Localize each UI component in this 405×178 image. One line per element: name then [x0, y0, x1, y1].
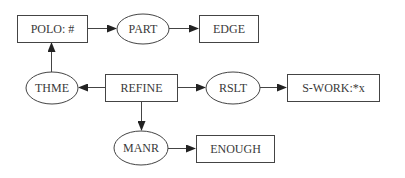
node-edge: EDGE	[200, 16, 259, 43]
node-label: PART	[129, 22, 159, 36]
node-thme: THME	[26, 72, 78, 104]
diagram-canvas: POLO: # PART EDGE THME REFINE RSLT S-WOR…	[0, 0, 405, 178]
node-enough: ENOUGH	[197, 136, 275, 163]
node-label: POLO: #	[31, 22, 75, 36]
node-label: MANR	[123, 141, 159, 155]
node-manr: MANR	[114, 131, 168, 165]
node-rslt: RSLT	[206, 72, 260, 104]
node-polo: POLO: #	[18, 16, 88, 43]
node-label: ENOUGH	[210, 142, 261, 156]
node-label: REFINE	[121, 81, 163, 95]
node-label: S-WORK:*x	[302, 81, 365, 95]
node-refine: REFINE	[106, 75, 178, 102]
node-part: PART	[117, 14, 169, 44]
node-label: THME	[35, 81, 69, 95]
node-label: EDGE	[213, 22, 245, 36]
node-label: RSLT	[219, 81, 248, 95]
node-swork: S-WORK:*x	[288, 75, 380, 102]
